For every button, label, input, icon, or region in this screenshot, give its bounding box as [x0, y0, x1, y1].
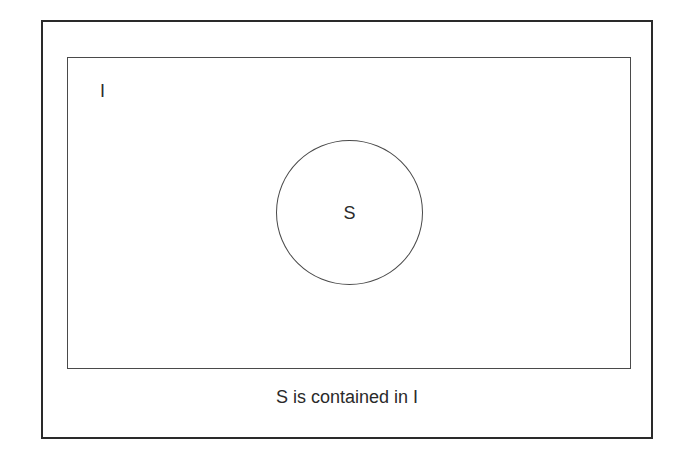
diagram-caption: S is contained in I [41, 387, 653, 407]
diagram-canvas: I S S is contained in I [0, 0, 693, 458]
subset-label: S [277, 141, 422, 284]
universe-set-label: I [100, 82, 105, 100]
subset-circle: S [276, 140, 423, 285]
